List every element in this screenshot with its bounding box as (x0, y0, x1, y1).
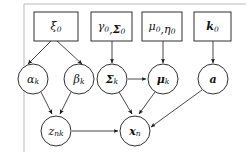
alpha-k-node[interactable]: αk (18, 64, 48, 94)
x-n-node[interactable]: xn (120, 116, 150, 146)
z-nk-node[interactable]: znk (41, 116, 71, 146)
graphical-model-svg: ξ0γ0,Σ0μ0,η0k0 αkβkΣkμka znkxn (0, 0, 249, 156)
edge-xi0-to-alpha-k (28, 41, 51, 64)
a-node[interactable]: a (198, 64, 228, 94)
mu-k-node[interactable]: μk (148, 64, 178, 94)
edge-a-to-x-n (151, 90, 202, 127)
edge-xi0-to-beta-k (57, 41, 82, 64)
edge-beta-k-to-z-nk (60, 92, 71, 114)
mu-zero-eta-zero-box[interactable]: μ0,η0 (142, 12, 182, 41)
beta-k-node[interactable]: βk (64, 64, 94, 94)
edge-alpha-k-to-z-nk (41, 92, 52, 114)
latent-node-group: αkβkΣkμka (18, 64, 228, 94)
edge-mu-k-to-x-n (139, 92, 155, 114)
sigma-k-node[interactable]: Σk (97, 64, 127, 94)
k-zero-box[interactable]: k0 (194, 12, 231, 41)
node-label: a (209, 73, 216, 86)
xi-zero-box[interactable]: ξ0 (34, 12, 78, 41)
gamma-zero-sigma-zero-box[interactable]: γ0,Σ0 (91, 12, 132, 41)
diagram-canvas: ξ0γ0,Σ0μ0,η0k0 αkβkΣkμka znkxn (0, 0, 249, 156)
hyperparameter-box-group: ξ0γ0,Σ0μ0,η0k0 (34, 12, 231, 41)
edge-sigma-k-to-x-n (119, 92, 132, 114)
